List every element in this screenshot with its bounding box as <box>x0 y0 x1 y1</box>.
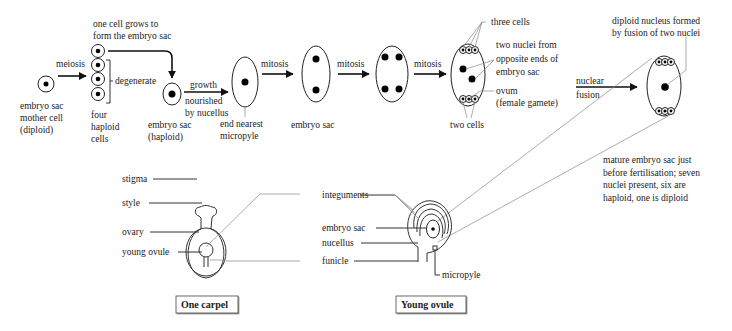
mature-sac-label-3: nuclei present, six are <box>603 180 686 190</box>
mother-cell-label-2: mother cell <box>20 113 63 123</box>
embryo-sac-eight-nuclei <box>451 44 485 106</box>
integuments-label: integuments <box>322 190 369 200</box>
mitosis-label-1: mitosis <box>261 59 289 69</box>
ovule-caption: Young ovule <box>396 296 466 313</box>
mother-cell-label-3: (diploid) <box>20 125 53 136</box>
nourished-label-2: by nucellus <box>185 108 229 118</box>
micropyle-label: micropyle <box>442 270 481 280</box>
degenerate-label: degenerate <box>115 76 156 86</box>
mother-cell <box>38 76 54 92</box>
end-nearest-label-1: end nearest <box>220 119 263 129</box>
mature-embryo-sac <box>647 56 681 116</box>
carpel-caption: One carpel <box>176 296 238 313</box>
nuclear-fusion-label-2: fusion <box>576 90 600 100</box>
ovule-caption-text: Young ovule <box>401 299 454 310</box>
nuclear-fusion-label-1: nuclear <box>576 76 605 86</box>
ovum-label-1: ovum <box>496 86 518 96</box>
grow-label-2: form the embryo sac <box>93 31 171 41</box>
carpel-drawing <box>186 206 226 279</box>
four-haploid-cells <box>92 45 105 101</box>
mature-sac-label-4: haploid, one is diploid <box>603 193 688 203</box>
young-ovule-label: young ovule <box>122 247 169 257</box>
embryo-sac-label: embryo sac <box>291 120 335 130</box>
micropyle-pointer <box>435 250 440 275</box>
stigma-label: stigma <box>122 174 148 184</box>
ovum-label-2: (female gamete) <box>496 98 558 109</box>
three-cells-pointer <box>463 22 486 47</box>
diploid-nucleus-label-1: diploid nucleus formed <box>612 16 700 26</box>
two-nuclei-label-2: opposite ends of <box>496 54 559 64</box>
mature-sac-label-1: mature embryo sac just <box>603 155 692 165</box>
embryo-sac-haploid-label-2: (haploid) <box>148 132 183 143</box>
two-cells-label: two cells <box>450 120 484 130</box>
mature-sac-label-2: before fertilisation; seven <box>603 168 700 178</box>
four-haploid-label-2: haploid <box>91 122 120 132</box>
two-nuclei-label-1: two nuclei from <box>496 40 557 50</box>
embryo-sac-two-nuclei <box>302 46 330 102</box>
embryo-sac-ovule-label: embryo sac <box>322 223 366 233</box>
grow-arrow <box>108 51 172 78</box>
growth-label: growth <box>190 80 217 90</box>
mitosis-label-3: mitosis <box>414 59 442 69</box>
nucellus-label: nucellus <box>322 238 354 248</box>
nourished-label-1: nourished <box>185 96 223 106</box>
embryo-sac-one-nucleus <box>232 57 258 107</box>
mitosis-label-2: mitosis <box>337 59 365 69</box>
meiosis-label: meiosis <box>56 59 85 69</box>
mother-cell-label-1: embryo sac <box>20 101 64 111</box>
end-nearest-label-2: micropyle <box>220 131 259 141</box>
grow-label-1: one cell grows to <box>93 19 158 29</box>
three-cells-top <box>460 47 479 54</box>
zoom-line-lower <box>438 115 670 242</box>
funicle-label: funicle <box>322 256 348 266</box>
egg-apparatus-bottom <box>460 96 479 103</box>
carpel-caption-text: One carpel <box>181 299 228 310</box>
two-nuclei-label-3: embryo sac <box>496 67 540 77</box>
young-ovule-drawing <box>408 201 452 262</box>
embryo-sac-development-diagram: embryo sac mother cell (diploid) meiosis… <box>0 0 732 331</box>
degenerate-bracket <box>106 60 113 103</box>
four-haploid-label-1: four <box>91 110 108 120</box>
ovary-label: ovary <box>122 227 144 237</box>
embryo-sac-haploid-label-1: embryo sac <box>148 120 192 130</box>
four-haploid-label-3: cells <box>91 134 109 144</box>
diploid-nucleus-label-2: by fusion of two nuclei <box>612 28 700 38</box>
carpel-zoom-line-upper <box>206 194 300 247</box>
embryo-sac-four-nuclei <box>376 46 408 102</box>
haploid-embryo-sac <box>163 83 181 105</box>
three-cells-label: three cells <box>491 17 530 27</box>
style-label: style <box>122 198 140 208</box>
